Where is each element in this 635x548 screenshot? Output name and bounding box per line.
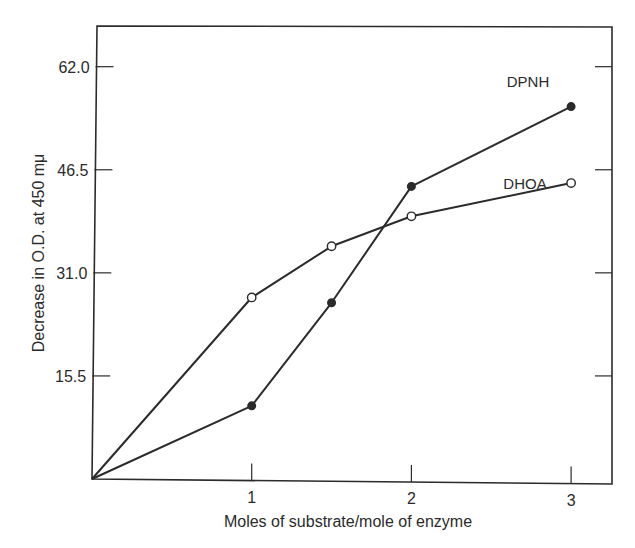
plot-frame	[92, 26, 612, 484]
series-dhoa: DHOA	[92, 175, 575, 479]
filled-circle-marker	[408, 183, 416, 191]
y-axis-title: Decrease in O.D. at 450 mμ	[30, 154, 47, 353]
y-tick-label: 15.5	[55, 368, 86, 385]
series-label-dpnh: DPNH	[507, 73, 550, 90]
series-group: DPNHDHOA	[92, 73, 575, 479]
line-chart: 15.531.046.562.0 123 DPNHDHOA Moles of s…	[0, 0, 635, 548]
y-axis-ticks: 15.531.046.562.0	[55, 59, 612, 385]
y-tick-label: 31.0	[56, 265, 87, 282]
open-circle-marker	[407, 212, 415, 220]
series-dpnh: DPNH	[92, 73, 575, 479]
x-axis-title: Moles of substrate/mole of enzyme	[224, 513, 472, 530]
filled-circle-marker	[328, 299, 336, 307]
filled-circle-marker	[248, 402, 256, 410]
x-tick-label: 1	[247, 489, 256, 506]
open-circle-marker	[248, 293, 256, 301]
series-line	[92, 183, 571, 479]
y-tick-label: 46.5	[57, 162, 88, 179]
open-circle-marker	[567, 179, 575, 187]
y-tick-label: 62.0	[58, 59, 89, 76]
x-tick-label: 3	[567, 492, 576, 509]
series-line	[92, 107, 571, 479]
open-circle-marker	[327, 242, 335, 250]
series-label-dhoa: DHOA	[503, 175, 546, 192]
x-axis-ticks: 123	[247, 464, 575, 509]
filled-circle-marker	[567, 103, 575, 111]
plot-border	[92, 26, 612, 484]
x-tick-label: 2	[407, 490, 416, 507]
